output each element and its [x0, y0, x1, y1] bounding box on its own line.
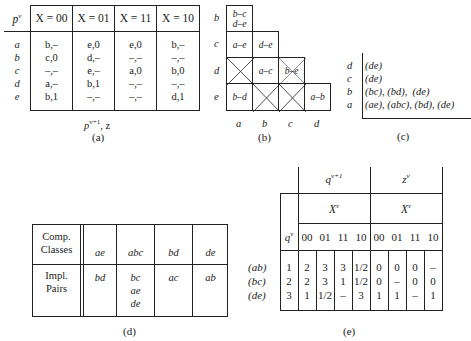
- crossed-cell: [278, 83, 305, 111]
- output: 0: [370, 261, 388, 274]
- next-state-header: qv+1: [298, 172, 370, 185]
- double-divider: [80, 224, 81, 317]
- state-number: 2: [280, 275, 298, 288]
- table-a-divider: [199, 5, 200, 111]
- table-a-header-rule: [4, 31, 200, 32]
- output: –: [388, 275, 406, 288]
- table-cell: a,–: [31, 78, 72, 90]
- state-label: e: [4, 91, 30, 103]
- cross-icon: [253, 84, 280, 112]
- table-cell: a,0: [115, 65, 156, 77]
- next-state: 3: [316, 275, 334, 288]
- input-code: 01: [388, 231, 406, 244]
- row-label: a: [347, 99, 352, 110]
- output: 1: [388, 289, 406, 302]
- header-rule: [280, 250, 443, 251]
- compatibility-class: abc: [117, 246, 154, 259]
- class-list: (bc), (bd), (de): [365, 86, 429, 97]
- row-header: Comp. Classes: [33, 230, 80, 256]
- crossed-cell: [252, 83, 279, 111]
- implied-pair: bd: [84, 271, 116, 284]
- implied-pair: bc: [117, 271, 154, 284]
- implied-pair: de: [117, 297, 154, 310]
- class-list: (ae), (abc), (bd), (de): [365, 99, 454, 110]
- class-label: (ab): [248, 260, 266, 274]
- state-label: c: [4, 65, 30, 77]
- input-code: 11: [406, 231, 424, 244]
- class-list: (de): [365, 73, 382, 84]
- state-label: a: [4, 39, 30, 51]
- caption-b: (b): [258, 131, 271, 143]
- input-code: 11: [334, 231, 352, 244]
- table-cell: b,–: [157, 39, 199, 51]
- class-label: (bc): [248, 274, 266, 288]
- implied-pair: ae: [117, 284, 154, 297]
- implication-cell: b–c d–e: [226, 5, 253, 32]
- table-cell: –,–: [31, 65, 72, 77]
- output: 0: [406, 261, 424, 274]
- state-label: b: [4, 52, 30, 64]
- table-cell: –,–: [115, 91, 156, 103]
- next-state: 1/2: [316, 289, 334, 302]
- cross-icon: [279, 84, 306, 112]
- caption-d: (d): [123, 325, 136, 337]
- output: 0: [406, 275, 424, 288]
- row-header: Impl. Pairs: [33, 269, 80, 295]
- output-header: zv: [370, 172, 442, 185]
- row-label: d: [214, 65, 219, 76]
- vertical-rule: [362, 53, 363, 119]
- state-number: 3: [280, 289, 298, 302]
- implication-cell: a–e: [226, 31, 253, 58]
- next-state: –: [334, 289, 352, 302]
- table-cell: d,1: [157, 91, 199, 103]
- input-code: 10: [352, 231, 370, 244]
- col-label: c: [288, 118, 293, 129]
- table-a-bottom-border: [30, 110, 200, 111]
- output: 0: [424, 275, 442, 288]
- next-state: 3: [352, 289, 370, 302]
- table-cell: –,–: [115, 78, 156, 90]
- cross-icon: [227, 58, 254, 85]
- next-state: 2: [298, 261, 316, 274]
- row-divider: [32, 264, 228, 265]
- input-header: Xv: [298, 202, 370, 215]
- table-a-footer: pv+1, z: [84, 118, 110, 131]
- table-e-right-border: [442, 167, 443, 310]
- compatibility-class: bd: [155, 246, 192, 259]
- table-cell: d,–: [73, 52, 114, 64]
- table-cell: e,0: [115, 39, 156, 51]
- implication-text: b–e: [285, 66, 299, 76]
- implication-cell: a–c: [252, 57, 279, 84]
- col-label: b: [262, 118, 267, 129]
- output: –: [424, 261, 442, 274]
- crossed-implication-cell: b–e: [278, 57, 305, 84]
- table-cell: b,1: [73, 78, 114, 90]
- table-cell: b,0: [157, 65, 199, 77]
- output: 0: [370, 275, 388, 288]
- table-cell: –,–: [73, 91, 114, 103]
- caption-c: (c): [397, 130, 409, 142]
- next-state: 2: [298, 275, 316, 288]
- class-list: (de): [365, 60, 382, 71]
- table-e-bottom-border: [280, 310, 443, 311]
- implication-cell: a–b: [304, 83, 331, 111]
- table-a-top-border: [30, 5, 200, 6]
- next-state: 3: [334, 261, 352, 274]
- table-cell: –,–: [115, 52, 156, 64]
- row-label: d: [347, 60, 352, 71]
- row-label: c: [347, 73, 352, 84]
- compatibility-class: ae: [84, 246, 116, 259]
- compatibility-class: de: [193, 246, 228, 259]
- bottom-rule: [362, 118, 471, 119]
- class-label: (de): [248, 288, 266, 302]
- table-cell: c,0: [31, 52, 72, 64]
- row-label: b: [214, 12, 219, 23]
- input-code: 10: [424, 231, 442, 244]
- implication-cell: b–d: [226, 83, 253, 111]
- header-rule: [280, 193, 443, 194]
- column-header: X = 10: [157, 12, 199, 24]
- input-code: 00: [298, 231, 316, 244]
- column-header: X = 00: [31, 12, 72, 24]
- column-header: X = 11: [115, 12, 156, 24]
- implied-pair: ab: [193, 271, 228, 284]
